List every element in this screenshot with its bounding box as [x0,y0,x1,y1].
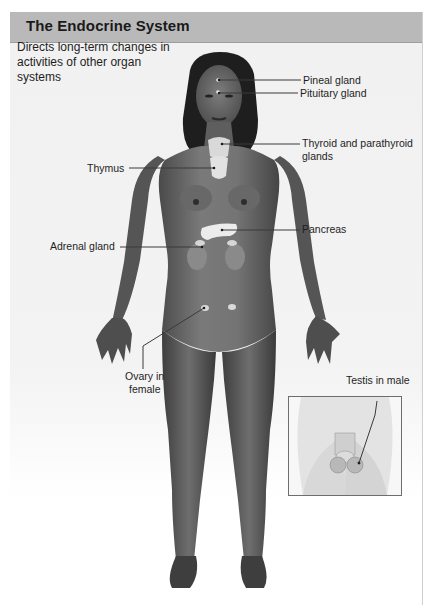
right-adrenal-gland [227,240,237,246]
thyroid-gland [208,137,230,159]
left-adrenal-gland [195,240,205,246]
label-thyroid-line2: glands [302,150,333,163]
left-leg [162,330,216,560]
male-pelvis-inset [288,396,402,496]
left-hand [96,318,132,364]
label-ovary-line1: Ovary in [125,370,164,383]
label-pituitary-gland: Pituitary gland [300,87,367,100]
left-testis [330,457,346,473]
label-thymus: Thymus [87,162,124,175]
label-pineal-gland: Pineal gland [303,74,361,87]
label-pancreas: Pancreas [302,223,346,236]
label-thyroid-line1: Thyroid and parathyroid [302,137,413,150]
left-foot [170,556,197,588]
right-kidney [225,244,245,270]
right-hand [306,316,340,364]
label-adrenal-gland: Adrenal gland [50,240,115,253]
male-pelvis-inset-illustration [289,397,401,495]
right-leg [222,330,276,560]
head [196,65,242,127]
left-kidney [187,244,207,270]
right-ovary [228,304,236,310]
label-ovary-line2: female [129,383,161,396]
label-testis: Testis in male [346,374,410,387]
right-foot [241,556,267,588]
